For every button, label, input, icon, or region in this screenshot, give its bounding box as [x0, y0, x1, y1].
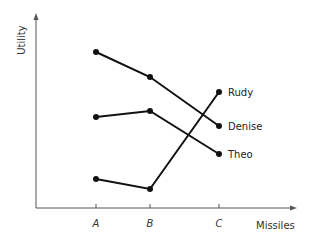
x-tick-label-b: B: [147, 218, 154, 229]
series-label-denise: Denise: [228, 121, 262, 132]
rudy-point-b: [147, 186, 153, 192]
theo-point-a: [93, 114, 99, 120]
x-tick-label-c: C: [216, 218, 223, 229]
chart: A B C Missiles Utility Rudy Denise Theo: [0, 0, 311, 242]
x-tick-label-a: A: [92, 218, 100, 229]
denise-point-b: [147, 74, 153, 80]
theo-point-b: [147, 108, 153, 114]
rudy-point-a: [93, 176, 99, 182]
series-rudy-line: [96, 92, 219, 189]
denise-point-a: [93, 49, 99, 55]
y-axis-label: Utility: [16, 25, 27, 54]
series-label-theo: Theo: [227, 149, 253, 160]
y-axis-arrow-icon: [34, 13, 39, 20]
x-axis-arrow-icon: [290, 206, 297, 211]
denise-point-c: [216, 123, 222, 129]
series-label-rudy: Rudy: [228, 87, 253, 98]
x-axis-label: Missiles: [256, 220, 295, 231]
theo-point-c: [216, 151, 222, 157]
rudy-point-c: [216, 89, 222, 95]
